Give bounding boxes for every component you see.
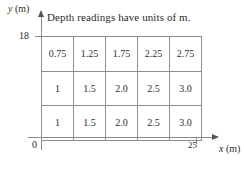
depth-cell: 3.0	[170, 71, 202, 106]
depth-cell: 1.5	[74, 71, 106, 106]
depth-cell: 1.25	[74, 37, 106, 72]
depth-readings-figure: Depth readings have units of m. y (m) x …	[0, 0, 244, 173]
depth-grid: 0.75 1.25 1.75 2.25 2.75 1 1.5 2.0 2.5 3…	[41, 36, 202, 141]
depth-cell: 2.25	[138, 37, 170, 72]
depth-cell: 2.0	[106, 71, 138, 106]
x-axis-label: x (m)	[219, 143, 240, 154]
table-row: 1 1.5 2.0 2.5 3.0	[42, 106, 202, 141]
depth-cell: 2.5	[138, 106, 170, 141]
y-axis-unit: (m)	[15, 3, 29, 14]
x-axis-unit: (m)	[226, 143, 240, 154]
depth-cell: 1.75	[106, 37, 138, 72]
y-axis-variable: y	[8, 3, 12, 14]
figure-title: Depth readings have units of m.	[47, 11, 191, 23]
x-axis-variable: x	[219, 143, 223, 154]
depth-cell: 0.75	[42, 37, 74, 72]
x-axis-arrow-icon	[212, 134, 219, 140]
depth-cell: 2.5	[138, 71, 170, 106]
x-axis-max-tick-label: 25	[188, 140, 197, 150]
depth-cell: 1	[42, 71, 74, 106]
depth-cell: 1	[42, 106, 74, 141]
y-axis-label: y (m)	[8, 3, 29, 14]
depth-grid-body: 0.75 1.25 1.75 2.25 2.75 1 1.5 2.0 2.5 3…	[42, 37, 202, 141]
origin-tick-label: 0	[32, 139, 37, 150]
depth-cell: 3.0	[170, 106, 202, 141]
depth-cell: 2.75	[170, 37, 202, 72]
table-row: 0.75 1.25 1.75 2.25 2.75	[42, 37, 202, 72]
y-axis-max-tick-label: 18	[19, 30, 29, 41]
depth-cell: 1.5	[74, 106, 106, 141]
y-axis-arrow-icon	[38, 10, 44, 17]
depth-cell: 2.0	[106, 106, 138, 141]
table-row: 1 1.5 2.0 2.5 3.0	[42, 71, 202, 106]
